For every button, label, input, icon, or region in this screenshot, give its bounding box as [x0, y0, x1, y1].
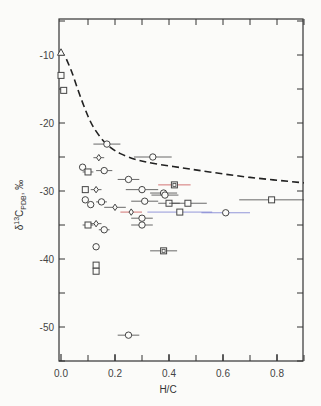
data-point-square [147, 209, 212, 215]
data-point-circle [118, 176, 140, 182]
data-point-circle [82, 197, 88, 203]
data-point-diamond [91, 186, 102, 192]
data-point-circle [93, 141, 120, 147]
data-point-boxed-square [158, 182, 190, 188]
data-point-circle [201, 210, 250, 216]
data-point-circle [96, 199, 107, 205]
data-point-circle [131, 215, 153, 221]
data-point-diamond [91, 220, 102, 226]
data-point-circle [126, 186, 158, 192]
y-axis-ticks: -10-20-30-40-50 [40, 21, 303, 361]
x-tick-label: 0.4 [162, 368, 176, 379]
x-tick-label: 0.2 [108, 368, 122, 379]
svg-text:δ13CPDB, ‰: δ13CPDB, ‰ [13, 180, 27, 231]
y-tick-label: -40 [40, 254, 55, 265]
x-tick-label: 0.0 [54, 368, 68, 379]
data-point-square [58, 72, 64, 78]
x-tick-label: 0.6 [216, 368, 230, 379]
x-tick-label: 0.8 [270, 368, 284, 379]
data-point-circle [131, 198, 158, 204]
data-point-square [83, 222, 94, 228]
data-point-square [169, 200, 207, 206]
data-point-diamond [93, 154, 104, 160]
data-point-circle [88, 201, 94, 207]
data-point-square [93, 262, 99, 268]
data-points [58, 49, 305, 339]
data-point-circle [99, 227, 110, 233]
data-point-square [93, 268, 99, 274]
data-point-boxed-square [150, 248, 177, 254]
y-tick-label: -30 [40, 186, 55, 197]
dashed-trend-curve [66, 59, 304, 183]
data-point-diamond [120, 209, 142, 215]
data-point-circle [96, 167, 112, 173]
data-point-square [239, 197, 304, 203]
data-point-circle [93, 244, 99, 250]
x-axis-label: H/C [159, 384, 176, 395]
data-point-circle [134, 154, 172, 160]
data-point-diamond [104, 204, 126, 210]
y-tick-label: -10 [40, 50, 55, 61]
scatter-chart: 0.00.20.40.60.8 -10-20-30-40-50 H/C δ13C… [0, 0, 321, 406]
x-axis-ticks: 0.00.20.40.60.8 [54, 19, 304, 379]
data-point-square [82, 187, 88, 193]
y-tick-label: -50 [40, 322, 55, 333]
data-point-circle [131, 222, 153, 228]
data-point-square [61, 87, 67, 93]
y-tick-label: -20 [40, 118, 55, 129]
data-point-circle [118, 332, 140, 338]
y-axis-label: δ13CPDB, ‰ [13, 180, 27, 231]
